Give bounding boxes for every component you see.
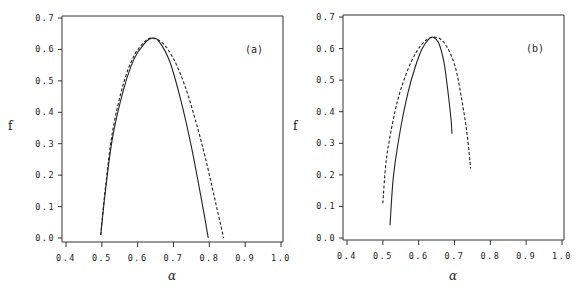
x-tick-label: 0.6 xyxy=(128,253,148,263)
x-axis-label: α xyxy=(168,269,176,283)
x-axis-label: α xyxy=(449,269,457,283)
y-tick-label: 0.2 xyxy=(35,170,55,180)
panel-label: (b) xyxy=(526,43,544,54)
chart-panel-b: 0.40.50.60.70.80.91.00.00.10.20.30.40.50… xyxy=(293,12,572,283)
y-tick-label: 0.1 xyxy=(316,201,336,211)
x-tick-label: 0.7 xyxy=(164,253,184,263)
y-tick-label: 0.4 xyxy=(35,107,55,117)
y-tick-label: 0.3 xyxy=(35,139,55,149)
x-tick-label: 0.5 xyxy=(92,253,112,263)
panel-label: (a) xyxy=(245,44,263,55)
y-tick-label: 0.6 xyxy=(316,44,336,54)
x-tick-label: 0.4 xyxy=(56,253,76,263)
series-solid-line xyxy=(101,38,209,238)
x-tick-label: 1.0 xyxy=(552,251,572,261)
x-tick-label: 1.0 xyxy=(271,253,291,263)
y-tick-label: 0.0 xyxy=(316,233,336,243)
x-tick-label: 0.9 xyxy=(516,251,536,261)
y-tick-label: 0.1 xyxy=(35,202,55,212)
chart-panel-a: 0.40.50.60.70.80.91.00.00.10.20.30.40.50… xyxy=(8,13,291,283)
chart-figure: 0.40.50.60.70.80.91.00.00.10.20.30.40.50… xyxy=(0,0,580,293)
x-tick-label: 0.8 xyxy=(199,253,219,263)
y-axis-label: f xyxy=(8,119,14,133)
y-tick-label: 0.5 xyxy=(35,76,55,86)
y-tick-label: 0.7 xyxy=(35,13,55,23)
y-axis-label: f xyxy=(293,119,299,133)
x-tick-label: 0.9 xyxy=(235,253,255,263)
x-tick-label: 0.5 xyxy=(373,251,393,261)
y-tick-label: 0.4 xyxy=(316,107,336,117)
x-tick-label: 0.4 xyxy=(337,251,357,261)
x-tick-label: 0.7 xyxy=(445,251,465,261)
y-tick-label: 0.3 xyxy=(316,138,336,148)
x-tick-label: 0.6 xyxy=(409,251,429,261)
series-dashed-line xyxy=(383,37,471,203)
y-tick-label: 0.5 xyxy=(316,75,336,85)
x-tick-label: 0.8 xyxy=(480,251,500,261)
series-dashed-line xyxy=(101,38,224,238)
y-tick-label: 0.7 xyxy=(316,12,336,22)
y-tick-label: 0.0 xyxy=(35,233,55,243)
y-tick-label: 0.6 xyxy=(35,44,55,54)
series-solid-line xyxy=(390,37,452,226)
y-tick-label: 0.2 xyxy=(316,170,336,180)
